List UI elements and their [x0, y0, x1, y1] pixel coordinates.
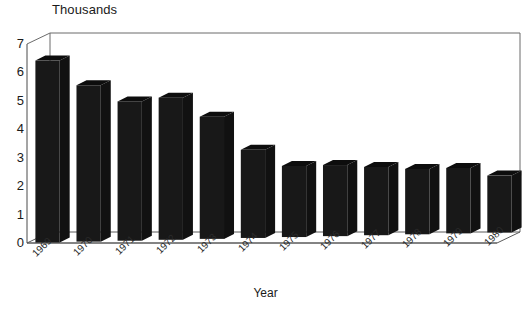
- bar: [241, 150, 265, 238]
- bar-side-face: [224, 112, 234, 239]
- bar-side-face: [512, 171, 522, 233]
- bar: [282, 166, 306, 237]
- bar-side-face: [429, 164, 439, 234]
- bar-side-face: [306, 161, 316, 237]
- y-axis-depth-edge: [27, 33, 50, 44]
- bar: [35, 61, 59, 243]
- bar-series: [35, 56, 521, 243]
- bar: [487, 176, 511, 233]
- bar: [200, 117, 224, 239]
- bar-side-face: [101, 80, 111, 241]
- bar-side-face: [183, 93, 193, 240]
- bar: [76, 85, 100, 241]
- bar: [364, 167, 388, 235]
- bar-side-face: [265, 145, 275, 238]
- bar-side-face: [347, 160, 357, 236]
- bar-side-face: [471, 163, 481, 233]
- x-axis-title: Year: [0, 286, 531, 300]
- bar: [323, 165, 347, 236]
- bar: [159, 98, 183, 240]
- bar: [118, 101, 142, 240]
- bar-side-face: [388, 162, 398, 235]
- bar-chart: Thousands 01234567 196919701971197219731…: [0, 0, 531, 311]
- bar-side-face: [60, 56, 70, 243]
- bar: [446, 168, 470, 233]
- bar-side-face: [142, 96, 152, 240]
- chart-plot-area: [0, 0, 531, 311]
- bar: [405, 169, 429, 234]
